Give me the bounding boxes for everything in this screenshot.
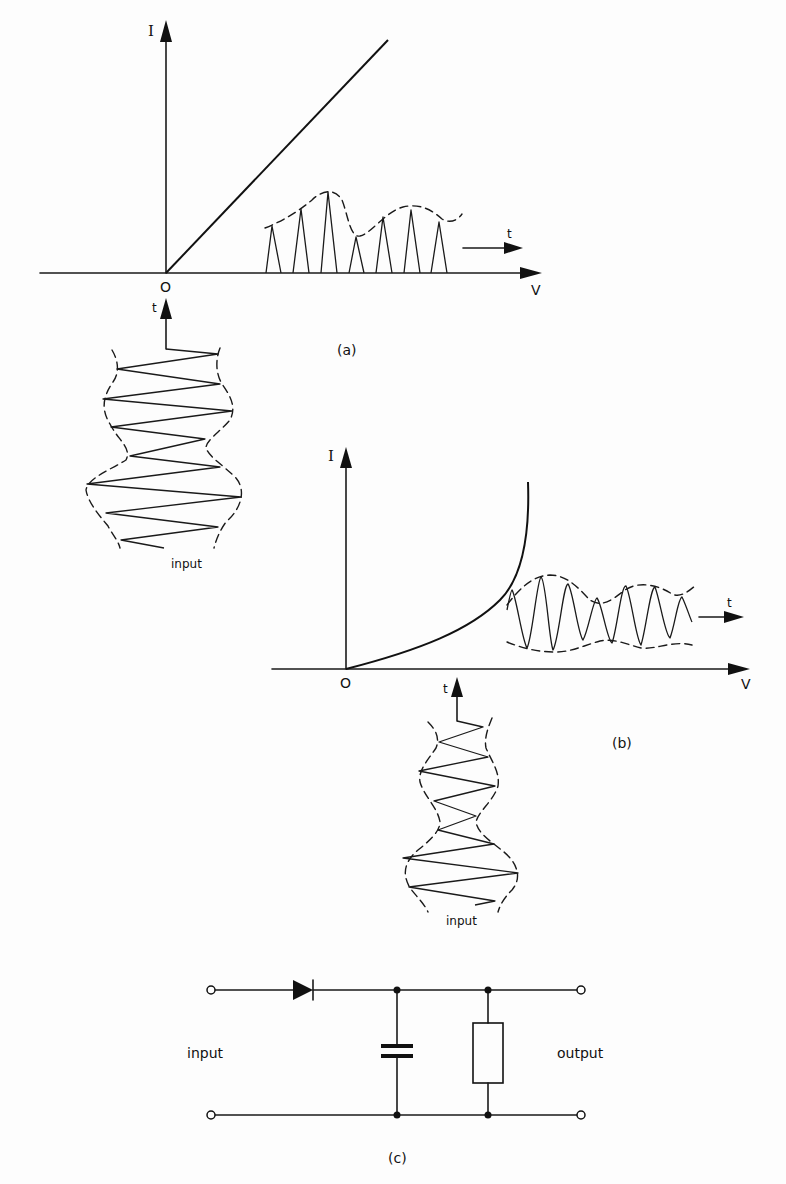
origin-label: O: [340, 675, 351, 691]
input-terminal-bottom: [207, 1111, 215, 1119]
v-axis-label: V: [741, 676, 751, 692]
panel-a-caption: (a): [337, 342, 357, 358]
output-terminal-top: [577, 986, 585, 994]
time-arrow-icon: [724, 611, 744, 623]
i-axis-arrow-icon: [340, 447, 352, 468]
input-envelope-left: [86, 350, 127, 548]
output-waveform: [507, 577, 692, 650]
i-axis-arrow-icon: [160, 20, 172, 42]
exponential-characteristic-curve: [346, 482, 528, 669]
time-arrow-icon: [504, 242, 523, 254]
figure-canvas: I V O t t input: [0, 0, 786, 1184]
v-axis-arrow-icon: [728, 663, 750, 675]
output-envelope: [265, 192, 462, 236]
time-label-input: t: [152, 301, 157, 315]
time-label-input: t: [443, 682, 448, 696]
output-pulses: [266, 192, 447, 273]
v-axis-label: V: [531, 282, 541, 298]
junction-node: [485, 987, 492, 994]
junction-node: [394, 1112, 401, 1119]
time-arrow-up-icon: [451, 677, 463, 697]
detector-diagram: I V O t t input: [0, 0, 786, 1184]
diode-icon: [293, 980, 313, 1000]
origin-label: O: [160, 279, 171, 295]
circuit-output-label: output: [557, 1045, 604, 1061]
time-label-output: t: [507, 227, 512, 241]
linear-characteristic-curve: [166, 40, 388, 273]
input-waveform: [87, 349, 241, 548]
input-label: input: [446, 914, 477, 928]
circuit-input-label: input: [187, 1045, 224, 1061]
input-envelope-right: [206, 348, 241, 548]
junction-node: [394, 987, 401, 994]
v-axis-arrow-icon: [520, 267, 542, 279]
output-envelope-lower: [507, 640, 692, 652]
time-label-output: t: [727, 596, 732, 610]
panel-c-caption: (c): [388, 1150, 407, 1166]
time-arrow-up-icon: [160, 298, 172, 319]
i-axis-label: I: [148, 22, 154, 40]
input-label: input: [171, 557, 202, 571]
panel-b-caption: (b): [612, 735, 632, 751]
input-envelope-right: [476, 718, 518, 912]
capacitor-plate-top: [381, 1044, 413, 1048]
panel-a: I V O t t input: [40, 20, 542, 571]
panel-c-circuit: input output (c): [187, 980, 604, 1166]
resistor-icon: [473, 1023, 503, 1083]
output-terminal-bottom: [577, 1111, 585, 1119]
i-axis-label: I: [328, 447, 334, 465]
panel-b: I V O t t input (b): [272, 447, 751, 928]
junction-node: [485, 1112, 492, 1119]
input-terminal-top: [207, 986, 215, 994]
input-waveform: [403, 721, 518, 905]
